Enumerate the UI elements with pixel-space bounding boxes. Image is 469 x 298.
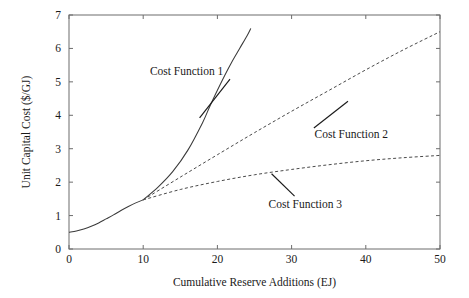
x-tick-label-30: 30 xyxy=(286,253,298,265)
y-tick-label-1: 1 xyxy=(55,210,61,222)
y-tick-label-4: 4 xyxy=(55,109,61,121)
y-tick-label-0: 0 xyxy=(55,243,61,255)
y-tick-label-6: 6 xyxy=(55,42,61,54)
x-tick-label-20: 20 xyxy=(212,253,224,265)
annotation-label-2: Cost Function 2 xyxy=(315,128,389,140)
y-tick-label-5: 5 xyxy=(55,76,61,88)
annotation-label-1: Cost Function 1 xyxy=(150,65,224,77)
x-tick-label-10: 10 xyxy=(137,253,149,265)
x-tick-label-50: 50 xyxy=(434,253,446,265)
unit-capital-cost-line-chart: 0102030405001234567Cumulative Reserve Ad… xyxy=(0,0,469,298)
y-tick-label-7: 7 xyxy=(55,9,61,21)
y-tick-label-2: 2 xyxy=(55,176,61,188)
x-axis-title: Cumulative Reserve Additions (EJ) xyxy=(173,276,336,289)
chart-figure: 0102030405001234567Cumulative Reserve Ad… xyxy=(0,0,469,298)
x-tick-label-0: 0 xyxy=(66,253,72,265)
annotation-label-3: Cost Function 3 xyxy=(269,198,343,210)
y-tick-label-3: 3 xyxy=(55,143,61,155)
x-tick-label-40: 40 xyxy=(360,253,372,265)
y-axis-title: Unit Capital Cost ($/GJ) xyxy=(20,75,33,188)
